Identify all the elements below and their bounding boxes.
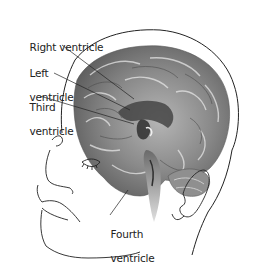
ventricles-diagram: Right ventricle Left ventricle Third ven… [0, 0, 260, 271]
brain [74, 46, 230, 222]
label-left-ventricle-line1: Left [30, 67, 49, 79]
label-third-ventricle: Third ventricle [17, 89, 74, 149]
label-right-ventricle-line1: Right ventricle [30, 41, 104, 53]
label-fourth-ventricle: Fourth ventricle [98, 216, 155, 271]
cerebellum [168, 169, 210, 196]
label-fourth-ventricle-line2: ventricle [111, 252, 155, 264]
label-third-ventricle-line2: ventricle [30, 125, 74, 137]
label-fourth-ventricle-line1: Fourth [111, 228, 144, 240]
label-third-ventricle-line1: Third [30, 101, 56, 113]
